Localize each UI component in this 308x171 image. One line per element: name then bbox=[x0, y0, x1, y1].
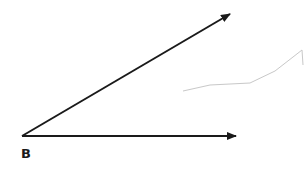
vertex-label-b: B bbox=[21, 146, 31, 161]
angle-diagram: B bbox=[0, 0, 308, 171]
faint-pencil-stroke bbox=[183, 50, 303, 91]
upper-ray bbox=[22, 14, 230, 136]
